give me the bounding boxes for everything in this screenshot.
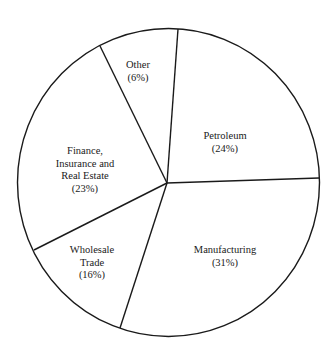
slice-label-manufacturing: Manufacturing (31%) — [194, 244, 256, 269]
slice-label-finance: Finance, Insurance and Real Estate (23%) — [56, 145, 115, 195]
label-line: Real Estate — [56, 170, 115, 183]
label-line: Finance, — [56, 145, 115, 158]
label-line: Insurance and — [56, 158, 115, 171]
label-percent: (6%) — [126, 72, 150, 85]
label-percent: (23%) — [56, 183, 115, 196]
label-line: Trade — [70, 257, 114, 270]
label-line: Manufacturing — [194, 244, 256, 257]
slice-label-petroleum: Petroleum (24%) — [203, 130, 246, 155]
label-percent: (16%) — [70, 269, 114, 282]
slice-label-wholesale: Wholesale Trade (16%) — [70, 244, 114, 282]
pie-chart — [0, 0, 335, 356]
label-percent: (31%) — [194, 257, 256, 270]
slice-label-other: Other (6%) — [126, 59, 150, 84]
label-line: Other — [126, 59, 150, 72]
label-line: Petroleum — [203, 130, 246, 143]
label-line: Wholesale — [70, 244, 114, 257]
label-percent: (24%) — [203, 143, 246, 156]
